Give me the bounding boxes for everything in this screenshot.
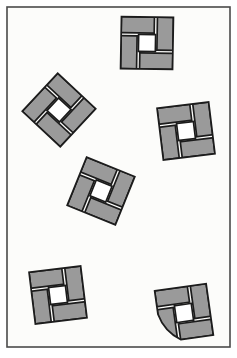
quadrant-bottom-right[interactable] xyxy=(140,53,173,70)
quadrant-bottom-left[interactable] xyxy=(121,36,138,69)
tile[interactable] xyxy=(29,266,87,324)
puzzle-figure xyxy=(0,0,237,358)
center-hole xyxy=(49,286,68,305)
tile[interactable] xyxy=(121,17,174,70)
quadrant-top-left[interactable] xyxy=(121,17,154,34)
figure-canvas xyxy=(0,0,237,358)
center-hole xyxy=(138,34,155,51)
tile[interactable] xyxy=(157,102,215,160)
center-hole xyxy=(174,303,193,322)
quadrant-top-right[interactable] xyxy=(157,17,174,50)
center-hole xyxy=(177,122,196,141)
